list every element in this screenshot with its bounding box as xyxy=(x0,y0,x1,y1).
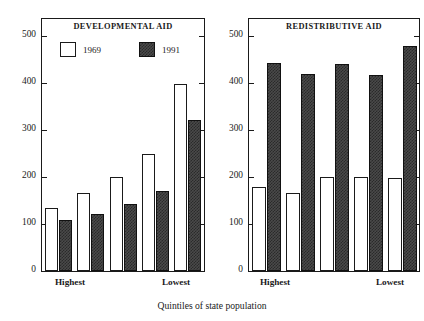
bar-right-1991-q1 xyxy=(267,63,281,271)
category-label-right-last: Lowest xyxy=(360,277,420,287)
chart-panel-redistributive-aid: REDISTRIBUTIVE AID 0100200300400500 High… xyxy=(212,0,424,300)
category-label-right-first: Highest xyxy=(245,277,305,287)
bar-right-1969-q2 xyxy=(286,193,300,271)
bar-left-1991-q2 xyxy=(91,214,104,271)
x-axis-title: Quintiles of state population xyxy=(0,300,424,311)
y-tick-label-left-100: 100 xyxy=(6,217,36,227)
y-tick-label-left-0: 0 xyxy=(6,264,36,274)
bar-left-1969-q5 xyxy=(174,84,187,271)
y-tick-label-right-500: 500 xyxy=(213,29,243,39)
bar-right-1969-q5 xyxy=(388,178,402,271)
y-tick-label-left-400: 400 xyxy=(6,76,36,86)
bar-right-1991-q3 xyxy=(335,64,349,271)
bar-left-1969-q3 xyxy=(110,177,123,271)
y-tick-mark-right-0 xyxy=(248,271,254,272)
category-label-left-first: Highest xyxy=(40,277,100,287)
bar-right-1969-q4 xyxy=(354,177,368,271)
bar-left-1991-q5 xyxy=(188,120,201,271)
bar-right-1991-q5 xyxy=(403,46,417,271)
bar-left-1991-q1 xyxy=(59,220,72,271)
plot-area-right xyxy=(249,19,419,271)
plot-area-left xyxy=(42,19,204,271)
bar-left-1969-q2 xyxy=(77,193,90,271)
bar-left-1991-q3 xyxy=(124,204,137,271)
bar-right-1969-q1 xyxy=(252,187,266,271)
y-tick-label-right-400: 400 xyxy=(213,76,243,86)
y-tick-label-right-100: 100 xyxy=(213,217,243,227)
y-tick-label-right-300: 300 xyxy=(213,123,243,133)
bar-right-1969-q3 xyxy=(320,177,334,271)
bar-right-1991-q4 xyxy=(369,75,383,271)
figure-root: DEVELOPMENTAL AID 0100200300400500 1969 … xyxy=(0,0,424,321)
category-label-left-last: Lowest xyxy=(146,277,206,287)
y-tick-label-left-300: 300 xyxy=(6,123,36,133)
y-tick-label-right-200: 200 xyxy=(213,170,243,180)
bar-left-1969-q4 xyxy=(142,154,155,272)
bar-right-1991-q2 xyxy=(301,74,315,271)
bar-left-1991-q4 xyxy=(156,191,169,271)
y-tick-label-left-500: 500 xyxy=(6,29,36,39)
y-tick-mark-left-0 xyxy=(41,271,47,272)
bar-left-1969-q1 xyxy=(45,208,58,271)
y-tick-label-right-0: 0 xyxy=(213,264,243,274)
y-tick-label-left-200: 200 xyxy=(6,170,36,180)
chart-panel-developmental-aid: DEVELOPMENTAL AID 0100200300400500 1969 … xyxy=(0,0,212,300)
